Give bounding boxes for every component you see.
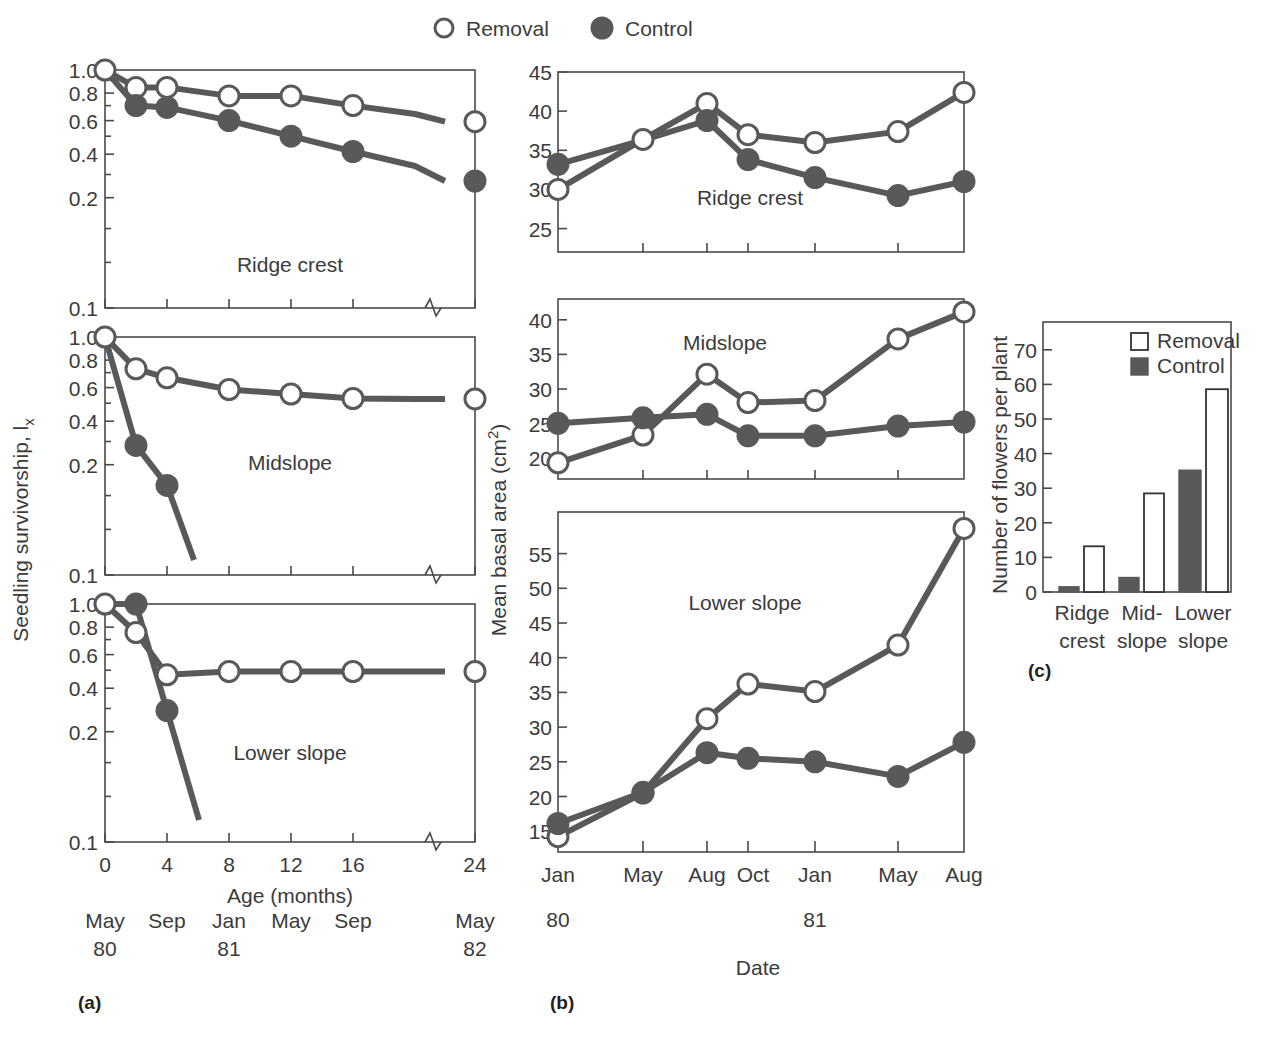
c-legend-control: Control [1157, 354, 1225, 377]
c-ytick-70: 70 [1014, 339, 1037, 362]
legend-label-control: Control [625, 17, 693, 40]
b-xtick-aug80: Aug [688, 863, 725, 886]
a1-subtitle: Ridge crest [237, 253, 343, 276]
a2-ytick-6: 0.1 [69, 564, 98, 587]
b2-ytick-30: 30 [529, 378, 552, 401]
a-date-3-month: May [271, 909, 311, 932]
c-ytick-60: 60 [1014, 373, 1037, 396]
bar-control-ridge-crest [1059, 587, 1079, 592]
a2-ytick-5: 0.2 [69, 454, 98, 477]
a3-ytick-3: 0.6 [69, 644, 98, 667]
a-date-2-year: 81 [217, 937, 240, 960]
bar-removal-ridge-crest [1084, 546, 1104, 592]
bar-removal-lower-slope [1206, 389, 1228, 592]
b1-markers-removal [548, 82, 974, 199]
a-xtick-16: 16 [341, 853, 364, 876]
legend-label-removal: Removal [466, 17, 549, 40]
a2-subtitle: Midslope [248, 451, 332, 474]
panel-a-midslope: 1.0 0.8 0.6 0.4 0.2 0.1 Mi [69, 326, 485, 587]
bar-control-lower-slope [1179, 470, 1201, 592]
a3-subtitle: Lower slope [233, 741, 346, 764]
panel-a-ylabel: Seedling survivorship, lx [9, 418, 37, 642]
b2-ytick-40: 40 [529, 309, 552, 332]
a1-ytick-5: 0.2 [69, 187, 98, 210]
c-ytick-0: 0 [1025, 581, 1037, 604]
panel-a-ridge-crest: 1.0 0.8 0.6 0.4 0.2 0.1 [69, 59, 485, 320]
a3-ytick-2: 0.8 [69, 616, 98, 639]
b3-ytick-25: 25 [529, 751, 552, 774]
c-xtick-ridge-2: crest [1059, 629, 1105, 652]
a3-ytick-5: 0.2 [69, 721, 98, 744]
a-xtick-4: 4 [161, 853, 173, 876]
b3-ytick-55: 55 [529, 543, 552, 566]
svg-text:Seedling survivorship, lx: Seedling survivorship, lx [9, 418, 37, 642]
open-circle-icon [435, 19, 453, 37]
panel-c-caption: (c) [1028, 660, 1051, 682]
b-xtick-year-81: 81 [803, 908, 826, 931]
c-xtick-lower-1: Lower [1174, 601, 1231, 624]
c-ytick-40: 40 [1014, 443, 1037, 466]
a1-ytick-4: 0.4 [69, 143, 99, 166]
c-ytick-50: 50 [1014, 408, 1037, 431]
b3-ytick-20: 20 [529, 786, 552, 809]
b-xtick-oct80: Oct [737, 863, 770, 886]
svg-text:Number of flowers per plant: Number of flowers per plant [988, 336, 1011, 594]
a1-ytick-2: 0.8 [69, 82, 98, 105]
c-xtick-lower-2: slope [1178, 629, 1228, 652]
a1-ytick-6: 0.1 [69, 297, 98, 320]
b2-ytick-35: 35 [529, 343, 552, 366]
b-xtick-may80: May [623, 863, 663, 886]
figure-legend: Removal Control [430, 10, 740, 44]
a-date-1-month: Sep [148, 909, 185, 932]
a1-ytick-3: 0.6 [69, 110, 98, 133]
a-xtick-0: 0 [99, 853, 111, 876]
b3-ytick-50: 50 [529, 577, 552, 600]
panel-a-lower-slope: 1.0 0.8 0.6 0.4 0.2 0.1 0 4 8 12 16 24 [69, 593, 487, 876]
b3-markers-control [548, 732, 974, 833]
panel-b-caption: (b) [550, 992, 574, 1014]
panel-b-lower-slope: 55 50 45 40 35 30 25 20 15 Jan May Aug O… [529, 512, 983, 886]
c-ytick-20: 20 [1014, 512, 1037, 535]
b1-ytick-40: 40 [529, 100, 552, 123]
b-xtick-aug81: Aug [945, 863, 982, 886]
c-ytick-10: 10 [1014, 546, 1037, 569]
a-date-4-month: Sep [334, 909, 371, 932]
bar-removal-midslope [1144, 493, 1164, 592]
panel-a-date-row: May Sep Jan May Sep May 80 81 82 [0, 906, 500, 966]
panel-a-caption: (a) [78, 992, 101, 1014]
a-date-0-year: 80 [93, 937, 116, 960]
panel-c: Number of flowers per plant 70 60 50 40 … [985, 300, 1279, 690]
svg-text:Mean basal area (cm2): Mean basal area (cm2) [484, 424, 510, 637]
b1-ytick-25: 25 [529, 218, 552, 241]
b3-ytick-30: 30 [529, 716, 552, 739]
open-square-icon [1131, 333, 1148, 350]
panel-b-ridge-crest: 45 40 35 30 25 [529, 61, 974, 252]
panel-b-caption-text: (b) [550, 992, 574, 1013]
c-xtick-mid-2: slope [1117, 629, 1167, 652]
b3-ytick-45: 45 [529, 612, 552, 635]
b-xtick-jan80: Jan [541, 863, 575, 886]
c-xtick-mid-1: Mid- [1122, 601, 1163, 624]
c-legend-removal: Removal [1157, 329, 1240, 352]
b3-ytick-35: 35 [529, 681, 552, 704]
panel-b: Mean basal area (cm2) 45 40 35 30 25 [480, 50, 1000, 910]
c-xtick-ridge-1: Ridge [1055, 601, 1110, 624]
bar-control-midslope [1119, 578, 1139, 593]
a3-ytick-4: 0.4 [69, 677, 99, 700]
panel-a-caption-text: (a) [78, 992, 101, 1013]
b1-subtitle: Ridge crest [697, 186, 803, 209]
b3-subtitle: Lower slope [688, 591, 801, 614]
c-ytick-30: 30 [1014, 477, 1037, 500]
panel-c-ylabel: Number of flowers per plant [988, 336, 1011, 594]
a2-ytick-2: 0.8 [69, 349, 98, 372]
a3-ytick-6: 0.1 [69, 831, 98, 854]
panel-c-caption-text: (c) [1028, 660, 1051, 681]
b1-ytick-45: 45 [529, 61, 552, 84]
a-xtick-8: 8 [223, 853, 235, 876]
a2-ytick-3: 0.6 [69, 377, 98, 400]
panel-b-xlabel: Date [736, 956, 780, 979]
b3-ytick-40: 40 [529, 647, 552, 670]
b2-subtitle: Midslope [683, 331, 767, 354]
a-xtick-12: 12 [279, 853, 302, 876]
panel-b-midslope: 40 35 30 25 20 [529, 299, 974, 479]
